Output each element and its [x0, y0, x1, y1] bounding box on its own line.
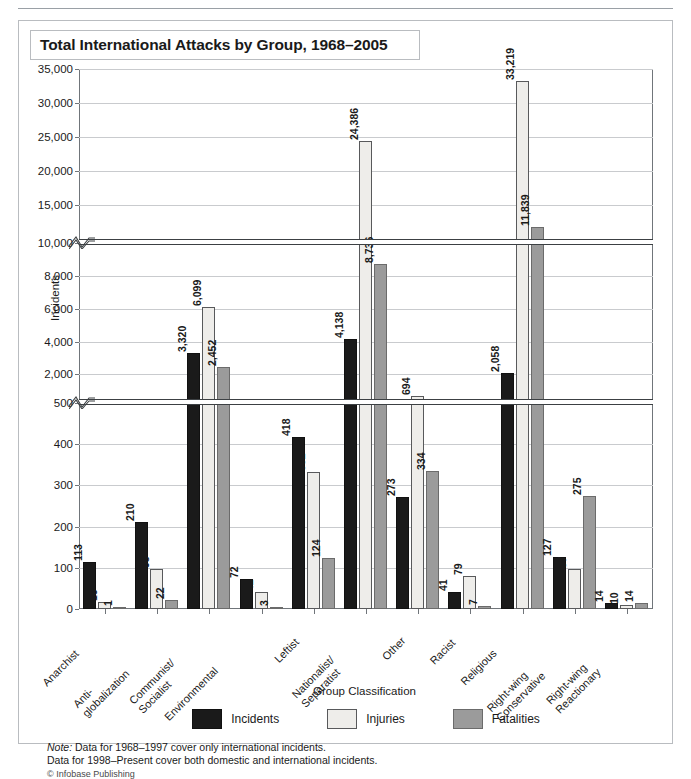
axis-break-10000 [79, 239, 653, 245]
bar-group: 41797 [444, 69, 496, 609]
bar-injuries[interactable]: 33,219 [516, 81, 529, 609]
bar-value-label: 210 [130, 513, 142, 531]
bar-fatalities[interactable]: 124 [322, 558, 335, 609]
axis-break-500 [79, 399, 653, 405]
plot-area: 01002003004005002,0004,0006,0008,00010,0… [79, 69, 653, 609]
bar-value-label: 3,320 [182, 339, 194, 365]
legend: IncidentsInjuriesFatalities [79, 709, 653, 729]
bar-group: 418332124 [288, 69, 340, 609]
bar-value-label: 334 [421, 462, 433, 480]
bar-value-label: 2,452 [212, 353, 224, 379]
bar-group: 3,3206,0992,452 [183, 69, 235, 609]
figure-frame: Total International Attacks by Group, 19… [18, 20, 673, 744]
bar-incidents[interactable]: 273 [396, 497, 409, 609]
bar-group: 141014 [601, 69, 653, 609]
y-axis-tick-label: 200 [54, 521, 73, 533]
figure-notes: Note: Data for 1968–1997 cover only inte… [47, 741, 377, 767]
bar-value-label: 332 [301, 462, 313, 480]
y-axis-tick-label: 10,000 [38, 237, 73, 249]
y-axis-tick-label: 0 [67, 603, 73, 615]
bar-group: 2,05833,21911,839 [497, 69, 549, 609]
y-axis-tick-label: 400 [54, 438, 73, 450]
bar-value-label: 8,736 [369, 250, 381, 276]
axis-break-zigzag-icon [69, 235, 95, 249]
y-axis-tick-label: 30,000 [38, 97, 73, 109]
publisher-credit: © Infobase Publishing [47, 769, 135, 779]
bar-value-label: 6,099 [197, 293, 209, 319]
bar-value-label: 113 [78, 553, 90, 570]
page-top-rule [18, 8, 673, 9]
y-axis-tick-label: 35,000 [38, 63, 73, 75]
x-axis-labels: AnarchistAnti-globalizationCommunist/Soc… [79, 613, 653, 683]
legend-swatch-fatalities [453, 709, 483, 729]
bar-injuries[interactable]: 97 [568, 569, 581, 609]
bar-group: 273694334 [392, 69, 444, 609]
note-text-1: Data for 1968–1997 cover only internatio… [72, 741, 326, 753]
y-axis-tick-label: 25,000 [38, 131, 73, 143]
x-axis-title: Group Classification [19, 685, 691, 697]
bar-fatalities[interactable]: 8,736 [374, 264, 387, 609]
bar-value-label: 33,219 [510, 64, 522, 96]
bar-fatalities[interactable]: 22 [165, 600, 178, 609]
y-axis-tick-label: 300 [54, 479, 73, 491]
bar-value-label: 275 [577, 486, 589, 504]
bar-value-label: 2,058 [495, 359, 507, 385]
bar-value-label: 273 [391, 487, 403, 505]
axis-break-zigzag-icon [69, 395, 95, 409]
y-axis-tick-label: 20,000 [38, 165, 73, 177]
bar-group: 113161 [79, 69, 131, 609]
bar-value-label: 14 [629, 596, 641, 608]
bar-incidents[interactable]: 3,320 [187, 353, 200, 609]
bar-value-label: 42 [249, 585, 261, 597]
bar-incidents[interactable]: 41 [448, 592, 461, 609]
legend-item: Fatalities [453, 709, 540, 729]
legend-item: Injuries [327, 709, 405, 729]
page-title: Total International Attacks by Group, 19… [40, 36, 388, 54]
bar-groups: 11316121098223,3206,0992,452724234183321… [79, 69, 653, 609]
legend-label: Incidents [231, 712, 279, 726]
x-axis-label: Right-wingReactionary [601, 613, 653, 683]
bar-injuries[interactable]: 694 [411, 396, 424, 609]
note-label: Note: [47, 741, 72, 753]
bar-incidents[interactable]: 2,058 [501, 373, 514, 609]
bar-group: 4,13824,3868,736 [340, 69, 392, 609]
legend-label: Fatalities [492, 712, 540, 726]
bar-value-label: 98 [145, 562, 157, 574]
bar-value-label: 11,839 [525, 210, 537, 242]
y-axis-tick-label: 6,000 [44, 303, 73, 315]
y-axis-tick-label: 2,000 [44, 368, 73, 380]
bar-value-label: 22 [160, 593, 172, 605]
bar-value-label: 7 [473, 602, 485, 608]
bar-value-label: 124 [316, 548, 328, 566]
note-line-1: Note: Data for 1968–1997 cover only inte… [47, 741, 377, 754]
y-axis-tick-label: 8,000 [44, 270, 73, 282]
bar-value-label: 97 [562, 562, 574, 574]
y-axis-tick-label: 100 [54, 562, 73, 574]
legend-label: Injuries [366, 712, 405, 726]
legend-swatch-incidents [192, 709, 222, 729]
bar-group: 12797275 [549, 69, 601, 609]
bar-value-label: 79 [458, 570, 470, 582]
bar-injuries[interactable]: 24,386 [359, 141, 372, 609]
legend-item: Incidents [192, 709, 279, 729]
bar-value-label: 4,138 [339, 325, 351, 351]
x-axis-label-text: Anarchist [40, 647, 81, 688]
bar-incidents[interactable]: 4,138 [344, 339, 357, 609]
bar-value-label: 418 [286, 427, 298, 445]
legend-swatch-injuries [327, 709, 357, 729]
note-line-2: Data for 1998–Present cover both domesti… [47, 754, 377, 767]
bar-value-label: 41 [443, 585, 455, 597]
bar-group: 72423 [236, 69, 288, 609]
y-axis-tick-label: 15,000 [38, 199, 73, 211]
y-axis-tick-label: 4,000 [44, 336, 73, 348]
figure-title-box: Total International Attacks by Group, 19… [30, 30, 420, 60]
bar-value-label: 24,386 [354, 124, 366, 156]
